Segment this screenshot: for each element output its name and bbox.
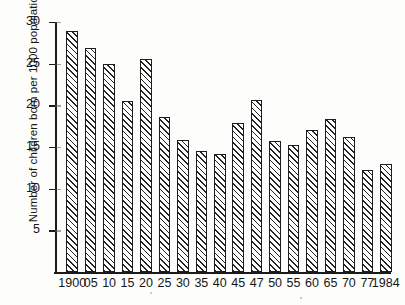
bar xyxy=(66,31,78,272)
plot-area: 51015202530 1900051015202530354045475055… xyxy=(55,22,395,272)
bar xyxy=(159,117,171,272)
y-tick-label: 25 xyxy=(14,56,40,70)
bar xyxy=(140,59,152,272)
y-tick-label: 15 xyxy=(14,139,40,153)
bar xyxy=(288,145,300,272)
y-tick-inner-stub xyxy=(55,22,61,23)
bar xyxy=(251,100,263,272)
y-tick-inner-stub xyxy=(55,64,61,65)
bar xyxy=(380,164,392,272)
bar xyxy=(343,137,355,272)
bar xyxy=(325,119,337,272)
x-tick-label: 1984 xyxy=(367,276,405,290)
y-axis-title: Number of children born per 1000 populat… xyxy=(27,0,39,231)
y-tick-label: 10 xyxy=(14,181,40,195)
bar xyxy=(232,123,244,272)
y-tick-inner-stub xyxy=(55,105,61,106)
y-tick-label: 20 xyxy=(14,97,40,111)
bar xyxy=(269,141,281,272)
bar xyxy=(177,140,189,273)
bar xyxy=(103,64,115,272)
scan-speck xyxy=(150,292,152,294)
x-axis-line xyxy=(54,272,391,274)
y-tick-inner-stub xyxy=(55,147,61,148)
bar xyxy=(122,101,134,272)
bar xyxy=(196,151,208,272)
bar xyxy=(85,48,97,272)
bar xyxy=(214,154,226,272)
y-tick-label: 5 xyxy=(14,222,40,236)
bar xyxy=(306,130,318,272)
y-tick-inner-stub xyxy=(55,189,61,190)
bar-chart-figure: Number of children born per 1000 populat… xyxy=(0,0,405,305)
bar xyxy=(362,170,374,272)
y-tick-inner-stub xyxy=(55,230,61,231)
y-tick-label: 30 xyxy=(14,14,40,28)
scan-speck xyxy=(300,297,302,299)
